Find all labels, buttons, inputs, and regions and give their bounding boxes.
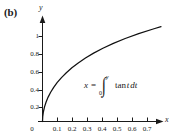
x-tick-label-0.2: 0.2 (68, 126, 77, 133)
y-axis-label: y (39, 4, 43, 12)
x-tick-label-0.3: 0.3 (83, 126, 92, 133)
x-tick-label-0.1: 0.1 (53, 126, 62, 133)
integral-lower-limit: 0 (99, 90, 102, 96)
x-axis-label: x (165, 116, 169, 124)
y-tick-label-1: 1 (36, 33, 40, 40)
y-tick-label-0.4: 0.4 (30, 87, 39, 94)
x-tick-label-0.7: 0.7 (143, 126, 152, 133)
x-axis (38, 119, 164, 125)
x-tick-label-0.5: 0.5 (113, 126, 122, 133)
equation-equals-sign: = (91, 81, 96, 90)
integrand-function: tan (115, 80, 126, 90)
y-tick-label-0.6: 0.6 (30, 69, 39, 76)
x-tick-label-0: 0 (30, 126, 34, 133)
y-tick-label-0.2: 0.2 (30, 104, 39, 111)
integral-upper-limit: y (106, 74, 109, 80)
differential-variable: t (135, 80, 138, 90)
plot-canvas (0, 0, 171, 140)
integral-group: y ∫ 0 (99, 74, 112, 96)
integrand-variable: t (127, 80, 130, 90)
equation-annotation: x = y ∫ 0 tan t dt (84, 74, 137, 96)
x-tick-label-0.6: 0.6 (128, 126, 137, 133)
x-tick-label-0.4: 0.4 (98, 126, 107, 133)
x-axis-ticks (58, 118, 148, 122)
figure-panel-b: (b) (0, 0, 171, 140)
y-tick-label-0.8: 0.8 (30, 51, 39, 58)
integral-sign-icon: ∫ (102, 75, 106, 96)
integrand: tan t dt (115, 81, 137, 90)
equation-lhs: x (84, 81, 88, 90)
